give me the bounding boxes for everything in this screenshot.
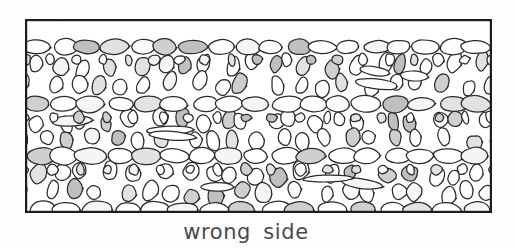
stitch-loop	[109, 97, 134, 110]
stitch-loop	[249, 132, 265, 150]
stitch-loop	[72, 55, 81, 64]
stitch-loop	[448, 170, 460, 185]
stitch-loop	[460, 181, 473, 199]
stitch-loop	[242, 97, 269, 111]
stitch-loop	[244, 149, 268, 164]
stitch-loop	[351, 114, 361, 122]
stitch-loop	[189, 147, 215, 163]
stitch-loop	[196, 115, 211, 133]
stitch-loop	[126, 55, 133, 66]
stitch-loop	[278, 129, 291, 146]
stitch-loop	[194, 96, 218, 111]
stitch-loop	[388, 113, 398, 131]
stitch-loop	[448, 111, 463, 126]
stitch-loop	[352, 166, 361, 174]
stitch-loop	[377, 113, 386, 123]
stitch-loop	[410, 54, 418, 65]
stitch-loop	[222, 167, 236, 183]
stitch-loop	[183, 114, 193, 123]
stitch-loop	[259, 40, 283, 53]
stitch-loop	[156, 165, 164, 174]
figure-caption: wrong side	[0, 220, 504, 244]
stitch-loop	[99, 54, 107, 64]
stitch-loop	[25, 96, 49, 111]
stitch-loop	[267, 114, 278, 122]
stitch-loop	[50, 113, 58, 122]
stitch-loop	[407, 164, 415, 175]
stitch-loop	[215, 96, 243, 112]
stitch-loop	[215, 148, 242, 164]
stitch-loop	[40, 131, 53, 145]
stitch-loop	[103, 165, 111, 173]
stitch-loop	[351, 95, 381, 112]
stitch-loop	[46, 54, 55, 65]
swatch-container	[25, 19, 492, 213]
stitch-fabric-drawing	[25, 19, 492, 213]
stitch-loop	[337, 40, 359, 53]
stitch-loop	[132, 148, 162, 164]
stitch-loop	[307, 55, 317, 64]
stitch-loop	[84, 128, 99, 144]
stitch-loop	[406, 113, 414, 123]
stitch-loop	[281, 110, 296, 126]
stitch-loop	[186, 165, 194, 173]
stitch-loop	[332, 55, 343, 64]
stitch-loop	[201, 183, 235, 192]
stitch-loop	[362, 131, 375, 144]
stitch-loop	[387, 41, 410, 54]
stitch-loop	[129, 164, 139, 175]
stitch-loop	[128, 110, 138, 123]
stitch-loop	[228, 54, 235, 67]
stitch-loop	[72, 75, 88, 93]
stitch-loop	[326, 96, 350, 112]
stitch-loop	[435, 113, 444, 122]
stitch-loop	[51, 96, 79, 111]
stitch-loop	[209, 39, 235, 54]
stitch-loop	[412, 40, 440, 54]
stitch-loop	[113, 79, 128, 95]
stitch-loop	[255, 182, 272, 202]
stitch-loop	[131, 132, 144, 150]
stitch-loop	[315, 80, 329, 97]
stitch-loop	[252, 55, 263, 65]
knitting-swatch-figure: wrong side	[0, 0, 515, 248]
